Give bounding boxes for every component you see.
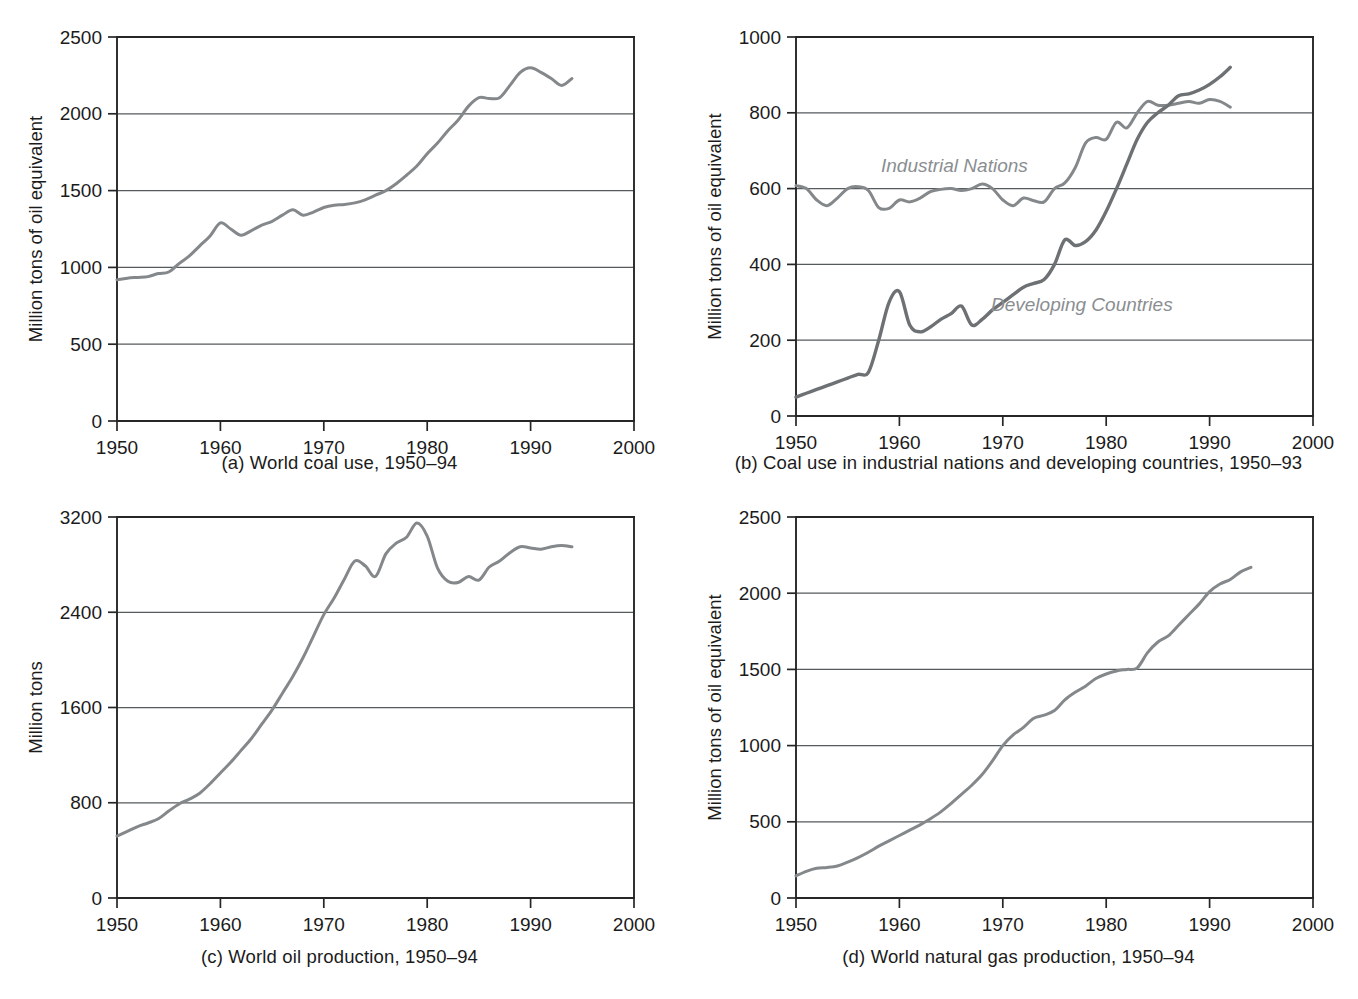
- y-axis-title: Million tons: [25, 661, 46, 754]
- x-tick-labels-b: 195019601970198019902000: [775, 432, 1334, 453]
- y-axis-title-a: Million tons of oil equivalent: [25, 116, 46, 342]
- x-tick-label: 1980: [1085, 432, 1127, 453]
- y-tick-label: 2000: [60, 103, 102, 124]
- y-tick-label: 2500: [739, 507, 781, 528]
- chart-panel-a: 05001000150020002500 1950196019701980199…: [0, 0, 679, 494]
- y-axis-title: Million tons of oil equivalent: [704, 594, 725, 820]
- y-tick-label: 0: [91, 411, 102, 432]
- series-annotation-industrial-nations: Industrial Nations: [881, 155, 1028, 176]
- x-tick-label: 1960: [878, 914, 920, 935]
- panel-caption-c: (c) World oil production, 1950–94: [0, 946, 679, 968]
- chart-panel-d: 05001000150020002500 1950196019701980199…: [679, 494, 1358, 988]
- tick-marks-b: [787, 37, 1313, 426]
- x-tick-label: 1950: [96, 914, 138, 935]
- data-series-a: [117, 68, 572, 280]
- y-tick-label: 500: [70, 334, 102, 355]
- y-tick-label: 1500: [60, 180, 102, 201]
- y-tick-label: 2400: [60, 602, 102, 623]
- y-axis-title-c: Million tons: [25, 661, 46, 754]
- y-tick-label: 400: [749, 254, 781, 275]
- x-tick-label: 1970: [303, 914, 345, 935]
- y-tick-label: 2000: [739, 583, 781, 604]
- chart-svg-d: 05001000150020002500 1950196019701980199…: [679, 494, 1358, 988]
- y-tick-label: 800: [749, 102, 781, 123]
- y-axis-title: Million tons of oil equivalent: [25, 116, 46, 342]
- y-tick-label: 2500: [60, 27, 102, 48]
- x-tick-labels-c: 195019601970198019902000: [96, 914, 655, 935]
- y-axis-title: Million tons of oil equivalent: [704, 113, 725, 339]
- y-tick-label: 1000: [739, 27, 781, 48]
- x-tick-label: 1980: [1085, 914, 1127, 935]
- y-axis-title-b: Million tons of oil equivalent: [704, 113, 725, 339]
- x-tick-label: 2000: [1292, 914, 1334, 935]
- x-tick-label: 2000: [1292, 432, 1334, 453]
- x-tick-label: 1960: [199, 914, 241, 935]
- data-series-b: [796, 67, 1230, 397]
- y-tick-label: 0: [770, 406, 781, 427]
- data-line-developing-countries: [796, 67, 1230, 397]
- chart-panel-b: 02004006008001000 1950196019701980199020…: [679, 0, 1358, 494]
- y-tick-label: 800: [70, 792, 102, 813]
- grid-lines-c: [117, 612, 634, 803]
- grid-lines-a: [117, 114, 634, 344]
- y-tick-label: 1600: [60, 697, 102, 718]
- data-series-c: [117, 523, 572, 836]
- y-tick-labels-a: 05001000150020002500: [60, 27, 102, 432]
- figure-grid: 05001000150020002500 1950196019701980199…: [0, 0, 1358, 999]
- x-tick-label: 1960: [878, 432, 920, 453]
- x-tick-label: 1970: [982, 914, 1024, 935]
- series-annotation-developing-countries: Developing Countries: [991, 294, 1173, 315]
- chart-svg-c: 0800160024003200 19501960197019801990200…: [0, 494, 679, 988]
- y-tick-labels-d: 05001000150020002500: [739, 507, 781, 909]
- x-tick-labels-d: 195019601970198019902000: [775, 914, 1334, 935]
- panel-caption-d: (d) World natural gas production, 1950–9…: [679, 946, 1358, 968]
- x-tick-label: 1950: [775, 914, 817, 935]
- y-tick-label: 1000: [60, 257, 102, 278]
- x-tick-label: 1980: [406, 914, 448, 935]
- y-tick-label: 1500: [739, 659, 781, 680]
- x-tick-label: 1970: [982, 432, 1024, 453]
- page-footer-text: [0, 988, 1358, 999]
- chart-svg-b: 02004006008001000 1950196019701980199020…: [679, 0, 1358, 494]
- x-tick-label: 1990: [509, 914, 551, 935]
- data-line-world-oil-production: [117, 523, 572, 836]
- panel-caption-a: (a) World coal use, 1950–94: [0, 452, 679, 474]
- grid-lines-d: [796, 593, 1313, 822]
- data-line-world-coal-use: [117, 68, 572, 280]
- y-tick-label: 0: [91, 888, 102, 909]
- data-line-world-natural-gas-production: [796, 567, 1251, 876]
- y-tick-label: 0: [770, 888, 781, 909]
- y-tick-label: 1000: [739, 735, 781, 756]
- chart-svg-a: 05001000150020002500 1950196019701980199…: [0, 0, 679, 494]
- axes-a: [117, 37, 634, 421]
- y-tick-labels-c: 0800160024003200: [60, 507, 102, 909]
- chart-panel-c: 0800160024003200 19501960197019801990200…: [0, 494, 679, 988]
- panel-caption-b: (b) Coal use in industrial nations and d…: [679, 452, 1358, 474]
- x-tick-label: 1990: [1188, 432, 1230, 453]
- tick-marks-a: [108, 37, 634, 431]
- y-tick-labels-b: 02004006008001000: [739, 27, 781, 427]
- x-tick-label: 2000: [613, 914, 655, 935]
- x-tick-label: 1990: [1188, 914, 1230, 935]
- y-axis-title-d: Million tons of oil equivalent: [704, 594, 725, 820]
- y-tick-label: 500: [749, 811, 781, 832]
- y-tick-label: 200: [749, 330, 781, 351]
- x-tick-label: 1950: [775, 432, 817, 453]
- y-tick-label: 3200: [60, 507, 102, 528]
- data-series-d: [796, 567, 1251, 876]
- y-tick-label: 600: [749, 178, 781, 199]
